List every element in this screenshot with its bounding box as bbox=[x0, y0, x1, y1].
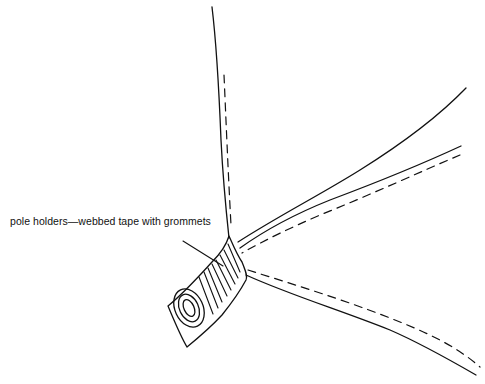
pole-holder-callout-label: pole holders—webbed tape with grommets bbox=[10, 215, 211, 227]
diagram-canvas: pole holders—webbed tape with grommets bbox=[0, 0, 485, 384]
webbed-tape-pole-holder bbox=[168, 236, 247, 347]
upper-right-seam bbox=[238, 88, 466, 242]
vertical-seam bbox=[212, 7, 231, 238]
tent-pole-holder-illustration bbox=[0, 0, 485, 384]
middle-right-seam bbox=[240, 146, 461, 253]
lower-right-seam bbox=[246, 270, 480, 375]
